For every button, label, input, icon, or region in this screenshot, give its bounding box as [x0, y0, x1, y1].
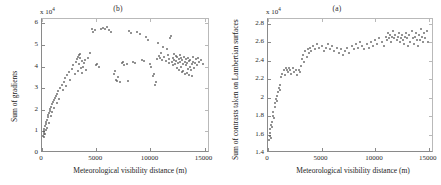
x-axis-label-b: Meteorological visibility distance (m)	[20, 166, 240, 175]
scatter-point	[154, 84, 156, 86]
scatter-point	[106, 26, 108, 28]
scatter-point	[283, 69, 285, 71]
scatter-point	[187, 68, 189, 70]
scatter-point	[403, 43, 405, 45]
scatter-point	[295, 69, 297, 71]
y-tick-label: 4	[35, 62, 39, 70]
scatter-point	[385, 36, 387, 38]
y-tick-mark	[42, 67, 45, 68]
scatter-point	[193, 67, 195, 69]
scatter-point	[152, 75, 154, 77]
x-tick-label: 0	[39, 154, 43, 162]
scatter-point	[76, 58, 78, 60]
scatter-point	[78, 63, 80, 65]
x-tick-label: 5000	[88, 154, 102, 162]
scatter-point	[81, 72, 83, 74]
scatter-point	[420, 28, 422, 30]
x-tick-mark	[429, 148, 430, 151]
scatter-point	[57, 90, 59, 92]
scatter-point	[167, 54, 169, 56]
x-tick-labels-a: 050001000015000	[221, 154, 441, 166]
scatter-point	[54, 97, 56, 99]
scatter-point	[316, 43, 318, 45]
scatter-point	[338, 52, 340, 54]
scatter-point	[178, 58, 180, 60]
scatter-point	[180, 66, 182, 68]
scatter-point	[153, 73, 155, 75]
y-tick-label: 1	[35, 126, 39, 134]
scatter-point	[412, 37, 414, 39]
scatter-point	[65, 85, 67, 87]
y-tick-label: 5	[35, 40, 39, 48]
scatter-point	[130, 32, 132, 34]
scatter-point	[179, 61, 181, 63]
scatter-point	[117, 76, 119, 78]
x-tick-mark-top	[322, 19, 323, 22]
x-tick-label: 15000	[419, 154, 437, 162]
plot-area-a	[267, 18, 433, 152]
scatter-point	[346, 47, 348, 49]
scatter-point	[64, 77, 66, 79]
scatter-point	[163, 56, 165, 58]
scatter-point	[178, 69, 180, 71]
scatter-point	[122, 61, 124, 63]
scatter-point	[289, 69, 291, 71]
y-tick-label: 2.8	[255, 19, 264, 27]
subplot-panel-b: (b) x 104 0123456 050001000015000 Meteor…	[0, 0, 220, 185]
scatter-point	[92, 31, 94, 33]
x-tick-mark	[322, 148, 323, 151]
y-tick-label: 2	[35, 105, 39, 113]
scatter-point	[49, 110, 51, 112]
scatter-point	[110, 31, 112, 33]
scatter-point	[300, 65, 302, 67]
scatter-point	[174, 63, 176, 65]
scatter-point	[191, 63, 193, 65]
x-tick-mark	[96, 148, 97, 151]
scatter-point	[304, 50, 306, 52]
scatter-point	[409, 41, 411, 43]
scatter-point	[401, 34, 403, 36]
scatter-point	[116, 80, 118, 82]
scatter-point	[421, 36, 423, 38]
y-tick-mark	[268, 24, 271, 25]
scatter-point	[361, 45, 363, 47]
y-tick-mark-right	[205, 23, 208, 24]
scatter-point	[277, 91, 279, 93]
scatter-point	[127, 80, 129, 82]
scatter-point	[408, 34, 410, 36]
x-tick-label: 0	[265, 154, 269, 162]
scatter-point	[184, 61, 186, 63]
scatter-point	[190, 69, 192, 71]
scatter-point	[55, 95, 57, 97]
x-tick-mark	[150, 148, 151, 151]
x-tick-label: 15000	[195, 154, 213, 162]
y-tick-mark	[42, 110, 45, 111]
y-tick-mark-right	[429, 61, 432, 62]
scatter-point	[374, 39, 376, 41]
scatter-point	[46, 127, 48, 129]
scatter-point	[340, 48, 342, 50]
y-tick-mark	[42, 23, 45, 24]
scatter-point	[388, 37, 390, 39]
scatter-point	[269, 128, 271, 130]
scatter-point	[422, 41, 424, 43]
y-tick-mark-right	[429, 24, 432, 25]
scatter-point	[344, 50, 346, 52]
x-axis-label-a: Meteorological visibility distance (m)	[243, 166, 441, 175]
scatter-point	[188, 74, 190, 76]
scatter-point	[82, 66, 84, 68]
x-tick-label: 10000	[141, 154, 159, 162]
scatter-point	[321, 45, 323, 47]
scatter-point	[402, 39, 404, 41]
scatter-point	[386, 39, 388, 41]
y-axis-exponent-b: x 104	[40, 6, 55, 16]
scatter-point	[419, 39, 421, 41]
scatter-point	[53, 99, 55, 101]
x-tick-mark-top	[268, 19, 269, 22]
scatter-point	[77, 70, 79, 72]
scatter-point	[143, 60, 145, 62]
scatter-point	[284, 74, 286, 76]
y-exponent-text: x 10	[40, 8, 52, 16]
scatter-point	[53, 107, 55, 109]
scatter-point	[171, 61, 173, 63]
